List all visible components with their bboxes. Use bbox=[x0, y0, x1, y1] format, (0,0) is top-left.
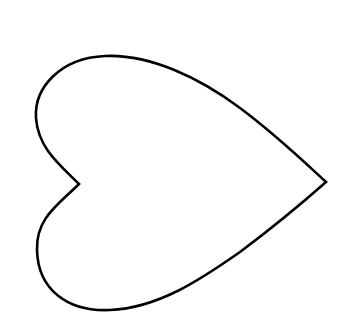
heart-shape bbox=[36, 56, 326, 310]
heart-outline-icon bbox=[0, 0, 357, 316]
